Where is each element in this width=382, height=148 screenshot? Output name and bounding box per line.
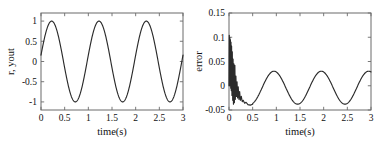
x-tick-label: 3 xyxy=(181,113,186,123)
x-tick-label: 2.5 xyxy=(341,113,353,123)
y-tick-label: 0.5 xyxy=(25,37,37,47)
chart-panel-r-yout: 00.511.522.53-1-0.500.51time(s)r, yout xyxy=(0,0,191,148)
plot-area-r-yout: 00.511.522.53-1-0.500.51time(s)r, yout xyxy=(0,0,191,148)
y-tick-label: -0.05 xyxy=(205,105,225,115)
y-tick-label: -0.5 xyxy=(22,77,37,87)
axis-frame xyxy=(229,13,371,110)
x-tick-label: 0.5 xyxy=(59,113,71,123)
x-tick-label: 2 xyxy=(133,113,138,123)
x-tick-label: 1.5 xyxy=(294,113,306,123)
x-axis-title: time(s) xyxy=(97,126,127,138)
x-tick-label: 1 xyxy=(274,113,279,123)
x-tick-label: 1.5 xyxy=(106,113,118,123)
plot-area-error: 00.511.522.53-0.0500.050.10.15time(s)err… xyxy=(191,0,382,148)
y-tick-label: 0.15 xyxy=(208,8,225,18)
y-tick-label: -1 xyxy=(29,97,37,107)
chart-panel-error: 00.511.522.53-0.0500.050.10.15time(s)err… xyxy=(191,0,382,148)
x-tick-label: 3 xyxy=(369,113,374,123)
x-tick-label: 1 xyxy=(86,113,91,123)
y-tick-label: 1 xyxy=(32,16,37,26)
y-axis-title: error xyxy=(193,51,204,72)
y-tick-label: 0.05 xyxy=(208,57,225,67)
y-tick-label: 0 xyxy=(220,81,225,91)
x-axis-title: time(s) xyxy=(285,126,315,138)
axis-frame xyxy=(41,13,183,110)
y-axis-title: r, yout xyxy=(5,48,16,75)
x-tick-label: 2.5 xyxy=(153,113,165,123)
y-tick-label: 0.1 xyxy=(213,33,225,43)
x-tick-label: 0.5 xyxy=(247,113,259,123)
x-tick-label: 0 xyxy=(227,113,232,123)
figure-container: 00.511.522.53-1-0.500.51time(s)r, yout 0… xyxy=(0,0,382,148)
x-tick-label: 2 xyxy=(321,113,326,123)
x-tick-label: 0 xyxy=(39,113,44,123)
y-tick-label: 0 xyxy=(32,57,37,67)
